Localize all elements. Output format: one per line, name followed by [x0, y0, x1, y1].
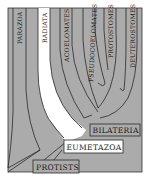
- phylogenetic-tree-diagram: PARAZOA RADIATA ACOELOMATES PSEUDOCOELOM…: [0, 0, 157, 182]
- bilateria-label: BILATERIA: [93, 126, 139, 135]
- label-radiata: RADIATA: [41, 12, 48, 43]
- label-deuterostomes: DEUTEROSTOMES: [129, 4, 136, 68]
- bilateria-node: BILATERIA: [90, 124, 140, 136]
- label-acoelomates: ACOELOMATES: [63, 8, 70, 63]
- protists-label: PROTISTS: [36, 163, 79, 172]
- eumetazoa-node: EUMETAZOA: [64, 140, 123, 153]
- eumetazoa-label: EUMETAZOA: [67, 143, 122, 152]
- label-protostomes: PROTOSTOMES: [107, 4, 114, 58]
- protists-node: PROTISTS: [33, 160, 79, 173]
- label-parazoa: PARAZOA: [16, 11, 23, 44]
